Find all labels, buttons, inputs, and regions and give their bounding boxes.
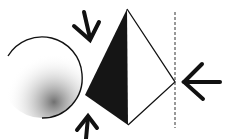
sphere <box>2 37 82 118</box>
arrow-bottom-icon <box>77 116 97 139</box>
arrow-top-icon <box>74 12 99 40</box>
arrow-right-icon <box>184 64 220 99</box>
diagram-canvas <box>0 0 228 139</box>
sketch-diagram <box>0 0 228 139</box>
